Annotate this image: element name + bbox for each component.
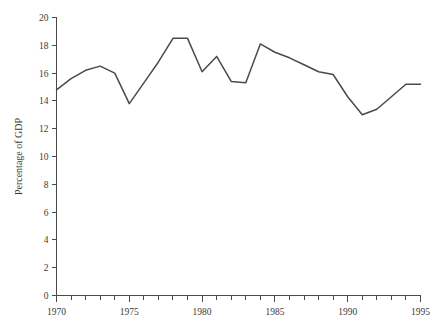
y-tick-label: 8 — [44, 180, 49, 190]
y-tick-label: 10 — [39, 152, 49, 162]
y-tick-label: 6 — [44, 208, 49, 218]
line-chart: 02468101214161820 1970197519801985199019… — [0, 0, 444, 330]
chart-container: 02468101214161820 1970197519801985199019… — [0, 0, 444, 330]
y-tick-label: 4 — [44, 235, 49, 245]
x-tick-label: 1980 — [193, 307, 212, 317]
y-tick-label: 14 — [39, 96, 49, 106]
y-tick-label: 0 — [44, 291, 49, 301]
x-tick-label: 1995 — [411, 307, 430, 317]
x-tick-label: 1975 — [120, 307, 139, 317]
x-tick-label: 1990 — [338, 307, 357, 317]
y-axis-title: Percentage of GDP — [13, 117, 24, 195]
y-tick-label: 20 — [39, 13, 49, 23]
y-axis-ticks: 02468101214161820 — [39, 13, 57, 301]
x-axis-ticks: 197019751980198519901995 — [47, 296, 430, 317]
y-tick-label: 12 — [39, 124, 49, 134]
y-tick-label: 2 — [44, 263, 49, 273]
x-tick-label: 1970 — [47, 307, 66, 317]
y-tick-label: 18 — [39, 41, 49, 51]
y-tick-label: 16 — [39, 69, 49, 79]
data-series-line — [57, 38, 421, 114]
x-tick-label: 1985 — [265, 307, 284, 317]
